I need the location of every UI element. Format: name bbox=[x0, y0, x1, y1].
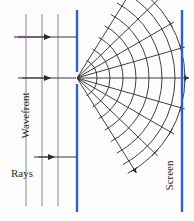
rays-label: Rays bbox=[11, 168, 33, 179]
diagram-canvas: Wavefront Rays Screen bbox=[0, 0, 194, 221]
wavefront-label: Wavefront bbox=[20, 85, 31, 147]
screen-label: Screen bbox=[164, 153, 175, 199]
